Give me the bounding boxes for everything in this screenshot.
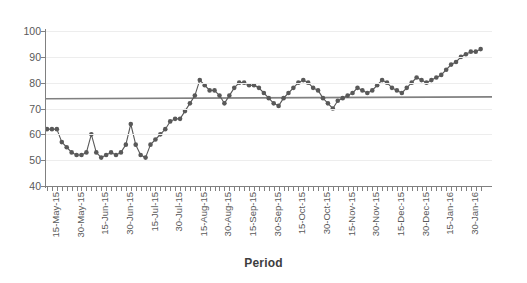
data-point bbox=[197, 78, 202, 83]
x-tick-mark bbox=[239, 187, 240, 191]
x-tick-mark bbox=[456, 187, 457, 191]
data-point bbox=[365, 91, 370, 96]
data-point bbox=[380, 78, 385, 83]
x-tick-mark bbox=[402, 187, 403, 191]
x-tick-mark bbox=[269, 187, 270, 191]
data-point bbox=[478, 47, 483, 52]
x-tick-mark bbox=[397, 187, 398, 191]
x-tick-label: 15-Aug-15 bbox=[199, 192, 209, 236]
gridline-60 bbox=[46, 134, 492, 135]
y-tick-mark-70 bbox=[41, 109, 46, 110]
x-tick-mark bbox=[116, 187, 117, 191]
x-tick-mark bbox=[284, 187, 285, 191]
x-tick-mark bbox=[431, 187, 432, 191]
x-tick-mark bbox=[67, 187, 68, 191]
x-tick-mark bbox=[121, 187, 122, 191]
x-tick-mark bbox=[476, 187, 477, 191]
x-tick-mark bbox=[274, 187, 275, 191]
x-tick-label: 30-May-15 bbox=[76, 192, 86, 237]
x-tick-mark bbox=[338, 187, 339, 191]
x-tick-mark bbox=[481, 187, 482, 191]
data-point bbox=[414, 75, 419, 80]
x-tick-mark bbox=[72, 187, 73, 191]
y-tick-mark-50 bbox=[41, 160, 46, 161]
x-tick-mark bbox=[377, 187, 378, 191]
x-tick-label: 15-Oct-15 bbox=[297, 192, 307, 234]
x-tick-mark bbox=[175, 187, 176, 191]
y-tick-label-50: 50 bbox=[17, 155, 41, 165]
data-point bbox=[473, 49, 478, 54]
x-tick-label: 15-Jun-15 bbox=[100, 192, 110, 235]
x-tick-mark bbox=[382, 187, 383, 191]
data-point bbox=[217, 93, 222, 98]
y-tick-mark-60 bbox=[41, 134, 46, 135]
series-line bbox=[47, 49, 481, 158]
x-tick-label: 30-Nov-15 bbox=[371, 192, 381, 236]
data-point bbox=[74, 153, 79, 158]
data-point bbox=[94, 150, 99, 155]
data-point bbox=[350, 91, 355, 96]
x-tick-mark bbox=[234, 187, 235, 191]
x-tick-mark bbox=[170, 187, 171, 191]
y-tick-mark-100 bbox=[41, 31, 46, 32]
x-tick-mark bbox=[328, 187, 329, 191]
x-axis-title: Period bbox=[0, 256, 527, 270]
data-point bbox=[124, 142, 129, 147]
data-point bbox=[469, 49, 474, 54]
x-tick-mark bbox=[293, 187, 294, 191]
x-tick-mark bbox=[303, 187, 304, 191]
data-point bbox=[439, 73, 444, 78]
x-tick-mark bbox=[308, 187, 309, 191]
y-tick-label-60: 60 bbox=[17, 129, 41, 139]
x-tick-mark bbox=[249, 187, 250, 191]
x-tick-mark bbox=[333, 187, 334, 191]
data-point bbox=[59, 140, 64, 145]
gridline-70 bbox=[46, 109, 492, 110]
x-tick-label: 30-Oct-15 bbox=[322, 192, 332, 234]
data-point bbox=[168, 119, 173, 124]
data-point bbox=[276, 104, 281, 109]
data-point bbox=[291, 86, 296, 91]
data-point bbox=[232, 86, 237, 91]
data-point bbox=[262, 91, 267, 96]
x-tick-label: 15-May-15 bbox=[51, 192, 61, 237]
data-point bbox=[193, 93, 198, 98]
data-point bbox=[266, 96, 271, 101]
data-point bbox=[178, 117, 183, 122]
x-tick-mark bbox=[86, 187, 87, 191]
gridline-80 bbox=[46, 83, 492, 84]
x-tick-mark bbox=[259, 187, 260, 191]
x-tick-mark bbox=[150, 187, 151, 191]
x-tick-mark bbox=[111, 187, 112, 191]
x-tick-mark bbox=[466, 187, 467, 191]
data-point bbox=[311, 86, 316, 91]
data-point bbox=[79, 153, 84, 158]
data-point bbox=[286, 91, 291, 96]
data-point bbox=[271, 101, 276, 106]
data-point bbox=[345, 93, 350, 98]
x-tick-mark bbox=[96, 187, 97, 191]
x-tick-mark bbox=[343, 187, 344, 191]
data-point bbox=[188, 101, 193, 106]
data-point bbox=[84, 150, 89, 155]
data-point bbox=[173, 117, 178, 122]
data-point bbox=[301, 78, 306, 83]
y-tick-label-90: 90 bbox=[17, 52, 41, 62]
x-tick-mark bbox=[200, 187, 201, 191]
x-tick-label: 30-Aug-15 bbox=[223, 192, 233, 236]
y-tick-label-80: 80 bbox=[17, 78, 41, 88]
x-tick-mark bbox=[353, 187, 354, 191]
x-tick-mark bbox=[210, 187, 211, 191]
x-tick-mark bbox=[412, 187, 413, 191]
x-tick-mark bbox=[101, 187, 102, 191]
data-point bbox=[321, 96, 326, 101]
data-point bbox=[390, 86, 395, 91]
plot-area bbox=[46, 31, 492, 186]
y-tick-mark-40 bbox=[41, 186, 46, 187]
line-chart: 405060708090100 15-May-1530-May-1515-Jun… bbox=[0, 0, 527, 283]
data-point bbox=[104, 153, 109, 158]
x-tick-label: 15-Sep-15 bbox=[248, 192, 258, 236]
y-tick-label-70: 70 bbox=[17, 104, 41, 114]
x-tick-mark bbox=[407, 187, 408, 191]
x-tick-mark bbox=[155, 187, 156, 191]
